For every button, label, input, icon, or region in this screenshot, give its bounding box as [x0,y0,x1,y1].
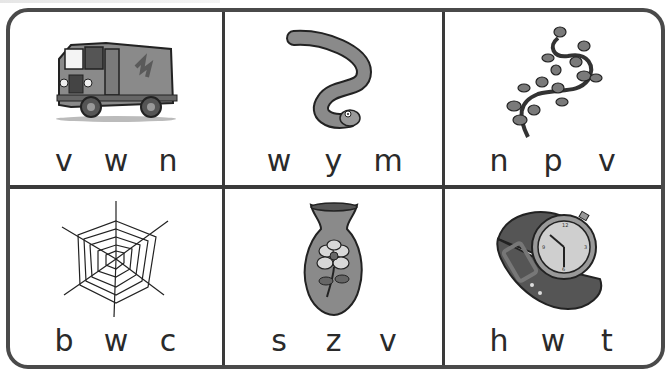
letter-choice[interactable]: p [537,143,569,179]
svg-text:12: 12 [562,222,568,228]
letter-choice[interactable]: w [537,323,569,359]
letter-choice[interactable]: z [318,323,350,359]
cell-web: b w c [10,189,222,365]
letter-choice[interactable]: w [100,143,132,179]
letter-choices: n p v [445,143,661,179]
vine-icon [445,22,661,142]
worksheet-grid: v w n w y m [10,12,661,365]
letter-choices: b w c [10,323,222,359]
cut-off-previous-line [0,0,220,3]
letter-choice[interactable]: s [263,323,295,359]
letter-choice[interactable]: b [48,323,80,359]
letter-choice[interactable]: y [318,143,350,179]
letter-choice[interactable]: m [372,143,404,179]
svg-text:3: 3 [584,244,587,250]
letter-choice[interactable]: v [591,143,623,179]
cell-vine: n p v [445,12,661,185]
letter-choice[interactable]: n [483,143,515,179]
worksheet-frame: v w n w y m [6,8,665,369]
letter-choice[interactable]: v [48,143,80,179]
vase-icon [225,199,442,319]
spider-web-icon [10,199,222,319]
cell-worm: w y m [225,12,442,185]
truck-icon [10,22,222,142]
svg-text:9: 9 [542,244,545,250]
letter-choices: h w t [445,323,661,359]
svg-text:6: 6 [562,266,565,272]
letter-choices: v w n [10,143,222,179]
letter-choice[interactable]: c [152,323,184,359]
letter-choice[interactable]: w [263,143,295,179]
letter-choice[interactable]: v [372,323,404,359]
cell-truck: v w n [10,12,222,185]
letter-choice[interactable]: n [152,143,184,179]
letter-choice[interactable]: h [483,323,515,359]
cell-watch: 123 69 h w t [445,189,661,365]
letter-choices: s z v [225,323,442,359]
letter-choice[interactable]: w [100,323,132,359]
letter-choices: w y m [225,143,442,179]
wristwatch-icon: 123 69 [445,199,661,319]
cell-vase: s z v [225,189,442,365]
worm-icon [225,22,442,142]
letter-choice[interactable]: t [591,323,623,359]
